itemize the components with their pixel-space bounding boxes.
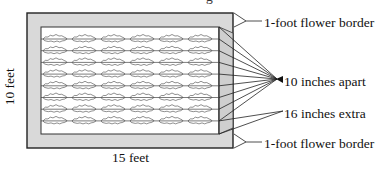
top-border-label: 1-foot flower border [264, 16, 374, 30]
arrowhead-icon [276, 76, 283, 83]
width-label: 15 feet [112, 151, 149, 165]
spacing-label: 10 inches apart [284, 75, 366, 89]
extra-label: 16 inches extra [284, 107, 366, 121]
extra-strip [219, 27, 233, 134]
figure-title-fragment: g [206, 0, 213, 4]
bottom-border-bracket [234, 134, 246, 148]
bottom-border-label: 1-foot flower border [264, 137, 374, 151]
height-label: 10 feet [3, 67, 17, 107]
top-border-bracket [234, 13, 246, 27]
planting-bed [41, 27, 219, 134]
